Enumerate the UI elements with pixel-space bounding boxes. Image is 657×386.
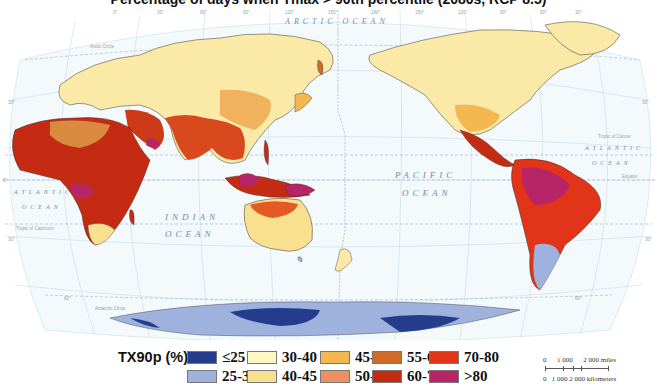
legend-swatch bbox=[372, 351, 402, 364]
legend-swatch bbox=[429, 370, 459, 383]
indian-ocean-label-2: OCEAN bbox=[165, 229, 215, 239]
pacific-ocean-label-1: PACIFIC bbox=[394, 170, 456, 180]
scale-bar: 0 1 000 2 000 miles 0 1 000 2 000 kilome… bbox=[543, 356, 653, 386]
atlantic-ocean-east-label-2: OCEAN bbox=[592, 160, 632, 166]
scale-line bbox=[545, 368, 608, 369]
svg-text:60°: 60° bbox=[200, 10, 207, 15]
indian-ocean-label-1: INDIAN bbox=[164, 212, 219, 222]
legend-swatch bbox=[320, 351, 350, 364]
svg-text:180°: 180° bbox=[371, 10, 381, 15]
atlantic-ocean-west-label-2: OCEAN bbox=[22, 204, 62, 210]
pacific-ocean-label-2: OCEAN bbox=[402, 188, 452, 198]
atlantic-ocean-east-label-1: ATLANTIC bbox=[584, 145, 644, 151]
svg-text:90°: 90° bbox=[243, 10, 250, 15]
world-map: ARCTIC OCEAN PACIFIC OCEAN INDIAN OCEAN … bbox=[0, 0, 657, 340]
svg-text:90°: 90° bbox=[500, 10, 507, 15]
scale-tick bbox=[573, 366, 574, 371]
svg-text:0°: 0° bbox=[113, 10, 118, 15]
svg-text:30°: 30° bbox=[157, 10, 164, 15]
tropic-cancer-label: Tropic of Cancer bbox=[598, 134, 632, 139]
scale-km-label: 0 1 000 2 000 kilometers bbox=[543, 375, 616, 383]
legend-item-70-80: 70-80 bbox=[429, 350, 499, 364]
legend-swatch bbox=[247, 351, 277, 364]
svg-text:30°: 30° bbox=[8, 237, 15, 242]
legend-item-gt80: >80 bbox=[429, 369, 488, 383]
svg-text:30°: 30° bbox=[8, 100, 15, 105]
legend-item-le25: ≤25 bbox=[187, 350, 245, 364]
svg-text:30°: 30° bbox=[642, 100, 649, 105]
svg-text:60°: 60° bbox=[540, 10, 547, 15]
legend-swatch bbox=[187, 351, 217, 364]
legend-swatch bbox=[429, 351, 459, 364]
svg-text:30°: 30° bbox=[645, 237, 652, 242]
legend-swatch bbox=[247, 370, 277, 383]
legend-title: TX90p (%) bbox=[118, 349, 188, 365]
svg-text:30°: 30° bbox=[575, 10, 582, 15]
scale-miles-label: 0 1 000 2 000 miles bbox=[543, 356, 616, 364]
svg-text:60°: 60° bbox=[64, 296, 71, 301]
svg-text:0°: 0° bbox=[3, 178, 8, 183]
scale-tick bbox=[545, 366, 546, 371]
scale-tick bbox=[563, 366, 564, 371]
arctic-ocean-label: ARCTIC OCEAN bbox=[284, 17, 389, 26]
svg-text:150°: 150° bbox=[415, 10, 425, 15]
legend-item-30-40: 30-40 bbox=[247, 350, 317, 364]
tropic-capricorn-label: Tropic of Capricorn bbox=[16, 226, 55, 231]
legend-swatch bbox=[372, 370, 402, 383]
antarctic-circle-label: Antarctic Circle bbox=[95, 306, 126, 311]
legend-swatch bbox=[320, 370, 350, 383]
svg-text:60°: 60° bbox=[575, 296, 582, 301]
legend-item-40-45: 40-45 bbox=[247, 369, 317, 383]
legend-swatch bbox=[187, 370, 217, 383]
scale-tick bbox=[581, 366, 582, 371]
svg-text:150°: 150° bbox=[328, 10, 338, 15]
longitude-ticks-top: 0° 30° 60° 90° 120° 150° 180° 150° 120° … bbox=[113, 10, 582, 15]
svg-text:120°: 120° bbox=[458, 10, 468, 15]
arctic-circle-label: Arctic Circle bbox=[90, 44, 114, 49]
scale-tick bbox=[608, 366, 609, 371]
svg-text:120°: 120° bbox=[285, 10, 295, 15]
atlantic-ocean-west-label-1: ATLANTIC bbox=[13, 189, 73, 195]
equator-label: Equator bbox=[622, 174, 638, 179]
